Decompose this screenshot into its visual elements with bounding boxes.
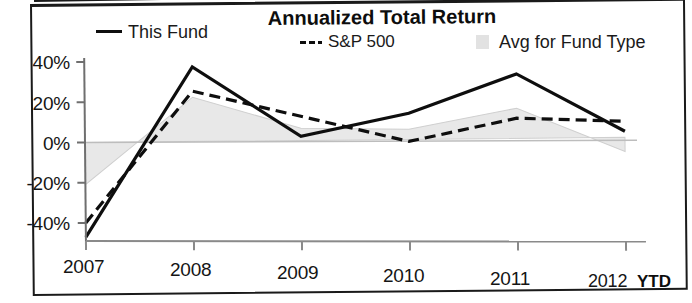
annualized-total-return-chart: Annualized Total Return This Fund S&P 50… [0, 0, 692, 303]
this-fund-line [84, 63, 626, 237]
x-axis-ticks [86, 236, 626, 256]
plot-canvas [0, 0, 692, 303]
scanned-page: Annualized Total Return This Fund S&P 50… [0, 0, 692, 303]
x-axis [86, 236, 646, 247]
y-axis [84, 58, 86, 241]
